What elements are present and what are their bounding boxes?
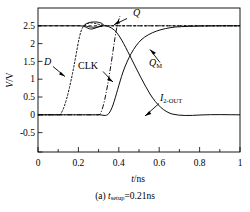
y-tick-label: 0.5 xyxy=(23,92,35,102)
curve-label-i2out: I2-OUT xyxy=(159,92,182,104)
annotation-arrows xyxy=(53,19,160,117)
y-tick-label: -0.5 xyxy=(20,128,35,138)
caption-value: =0.21ns xyxy=(124,191,154,201)
curve-label-d: D xyxy=(43,56,52,67)
figure-caption: (a) tsetup=0.21ns xyxy=(0,191,250,203)
x-axis-title: t/ns xyxy=(131,174,145,184)
chart-canvas: 2.5 2 1.5 1 0.5 0 -0.5 0 0.2 0.4 0.6 0.8… xyxy=(0,0,250,212)
y-tick-labels: 2.5 2 1.5 1 0.5 0 -0.5 xyxy=(20,21,35,138)
plot-frame xyxy=(38,8,240,152)
x-axis-ticks xyxy=(38,147,240,152)
y-tick-label: 1 xyxy=(30,74,35,84)
caption-prefix: (a) xyxy=(95,191,108,201)
curve-label-qm-sub: M xyxy=(156,62,162,69)
series-i2out xyxy=(38,26,240,116)
y-tick-label: 1.5 xyxy=(23,57,35,67)
series-d xyxy=(38,23,240,115)
x-tick-label: 0.6 xyxy=(153,158,165,168)
curve-label-clk: CLK xyxy=(78,60,99,71)
x-tick-label: 0.8 xyxy=(194,158,206,168)
curve-label-qm: QM xyxy=(149,57,162,69)
y-axis-ticks xyxy=(38,26,43,152)
x-tick-label: 0.2 xyxy=(72,158,84,168)
curve-label-i2out-sub: 2-OUT xyxy=(163,97,182,104)
x-tick-label: 0 xyxy=(36,158,41,168)
figure-container: 2.5 2 1.5 1 0.5 0 -0.5 0 0.2 0.4 0.6 0.8… xyxy=(0,0,250,212)
y-tick-label: 2 xyxy=(30,39,35,49)
y-tick-label: 0 xyxy=(30,110,35,120)
y-tick-label: 2.5 xyxy=(23,21,35,31)
curve-label-q: Q xyxy=(133,7,141,18)
caption-subscript: setup xyxy=(111,194,125,201)
x-tick-label: 0.4 xyxy=(113,158,125,168)
x-tick-labels: 0 0.2 0.4 0.6 0.8 1 xyxy=(36,158,243,168)
series-qm xyxy=(38,26,240,116)
x-tick-label: 1 xyxy=(238,158,243,168)
y-axis-title: V/V xyxy=(5,72,15,87)
